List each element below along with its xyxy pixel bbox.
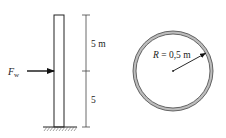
radius-label: R = 0,5 m [152,50,191,60]
lower-dimension-label: 5 [91,95,96,105]
tube-cross-section [133,31,213,111]
height-dimension-line [82,15,90,127]
force-label: Fw [7,66,20,79]
fixed-support-ground [43,127,77,131]
diagram-canvas: Fw 5 m 5 R = 0,5 m [0,0,226,138]
upper-dimension-label: 5 m [91,39,106,49]
column [54,15,64,127]
